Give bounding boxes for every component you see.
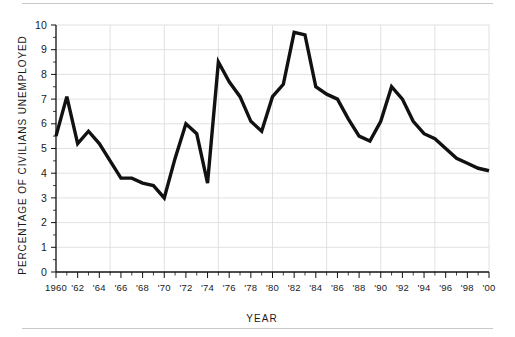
unemployment-line-chart: 012345678910 1960'62'64'66'68'70'72'74'7… xyxy=(0,0,515,337)
y-axis-title: PERCENTAGE OF CIVILIANS UNEMPLOYED xyxy=(17,35,28,274)
x-tick-label: '92 xyxy=(396,282,409,293)
y-tick-label: 8 xyxy=(41,68,47,80)
x-tick-label: '80 xyxy=(266,282,279,293)
x-tick-label: '84 xyxy=(309,282,322,293)
y-tick-label: 9 xyxy=(41,43,47,55)
x-tick-label: '62 xyxy=(71,282,84,293)
x-tick-label: '76 xyxy=(223,282,236,293)
x-tick-label: '90 xyxy=(374,282,387,293)
x-axis-tick-labels: 1960'62'64'66'68'70'72'74'76'78'80'82'84… xyxy=(45,282,495,293)
x-axis-ticks xyxy=(56,272,489,278)
x-axis-title: YEAR xyxy=(246,313,278,324)
x-tick-label: '96 xyxy=(439,282,452,293)
page-rule-bottom xyxy=(22,328,493,329)
x-tick-label: '72 xyxy=(179,282,192,293)
x-tick-label: '68 xyxy=(136,282,149,293)
x-tick-label: '74 xyxy=(201,282,214,293)
x-tick-label: '78 xyxy=(244,282,257,293)
y-tick-label: 10 xyxy=(35,19,47,31)
x-tick-label: '00 xyxy=(483,282,496,293)
x-tick-label: 1960 xyxy=(45,282,67,293)
page-rule-top xyxy=(22,3,493,4)
x-tick-label: '86 xyxy=(331,282,344,293)
y-tick-label: 1 xyxy=(41,241,47,253)
x-tick-label: '66 xyxy=(114,282,127,293)
y-axis-ticks xyxy=(51,25,56,272)
y-tick-label: 2 xyxy=(41,216,47,228)
y-axis-tick-labels: 012345678910 xyxy=(35,19,47,278)
y-tick-label: 3 xyxy=(41,192,47,204)
x-tick-label: '88 xyxy=(353,282,366,293)
y-tick-label: 6 xyxy=(41,117,47,129)
y-tick-label: 5 xyxy=(41,142,47,154)
x-tick-label: '94 xyxy=(418,282,431,293)
chart-canvas: 012345678910 1960'62'64'66'68'70'72'74'7… xyxy=(0,0,515,337)
x-tick-label: '70 xyxy=(158,282,171,293)
x-tick-label: '82 xyxy=(288,282,301,293)
y-tick-label: 0 xyxy=(41,266,47,278)
x-tick-label: '64 xyxy=(93,282,106,293)
x-tick-label: '98 xyxy=(461,282,474,293)
y-tick-label: 4 xyxy=(41,167,47,179)
y-tick-label: 7 xyxy=(41,93,47,105)
